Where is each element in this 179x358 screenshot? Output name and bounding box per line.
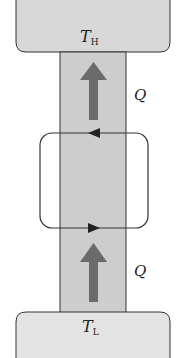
heat-pump-diagram: TH Q Q TL [0, 0, 179, 358]
hot-reservoir: TH [16, 0, 170, 52]
lower-heat-label: Q [134, 262, 146, 280]
upper-heat-label: Q [134, 86, 146, 104]
cold-reservoir: TL [16, 312, 170, 358]
